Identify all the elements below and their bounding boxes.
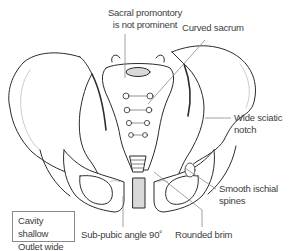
summary-box-line2: Outlet wide xyxy=(18,240,74,251)
sacral-promontory xyxy=(126,68,150,77)
summary-box-line1: Cavity shallow xyxy=(18,214,74,240)
label-sacral-promontory-line1: Sacral promontory xyxy=(90,7,200,19)
label-curved-sacrum: Curved sacrum xyxy=(182,22,244,34)
label-smooth-ischial-spines: Smooth ischial spines xyxy=(219,183,278,207)
label-wide-sciatic-notch-line2: notch xyxy=(234,124,282,136)
summary-box: Cavity shallow Outlet wide xyxy=(12,211,75,242)
label-rounded-brim: Rounded brim xyxy=(175,229,232,241)
sacrum xyxy=(102,64,173,171)
pubic-symphysis xyxy=(133,178,145,208)
label-sub-pubic-angle: Sub-pubic angle 90˚ xyxy=(81,229,162,241)
label-wide-sciatic-notch-line1: Wide sciatic xyxy=(234,112,282,124)
label-wide-sciatic-notch: Wide sciatic notch xyxy=(234,112,282,136)
label-smooth-ischial-spines-line2: spines xyxy=(219,195,278,207)
label-smooth-ischial-spines-line1: Smooth ischial xyxy=(219,183,278,195)
